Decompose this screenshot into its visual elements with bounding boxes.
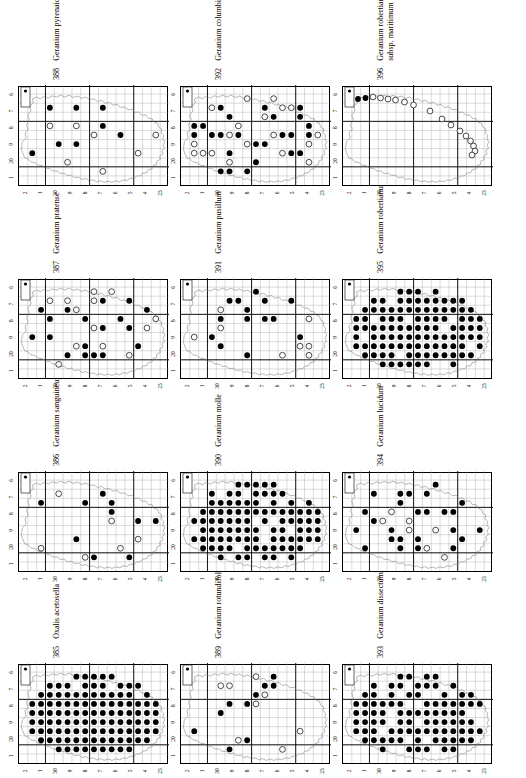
map-frame (18, 86, 168, 186)
filled-circle-symbol (200, 527, 206, 533)
rotated-content: 1209876213098765423387Geranium pratense (10, 199, 170, 389)
axis-tick-label: 7 (260, 770, 265, 773)
axis-tick-label: 9 (392, 385, 397, 388)
filled-circle-symbol (100, 701, 106, 707)
filled-circle-symbol (459, 307, 465, 313)
map-canvas (19, 85, 169, 185)
map-canvas (343, 278, 493, 378)
axis-tick-label: 8 (245, 192, 250, 195)
axis-tick-label: 7 (98, 578, 103, 581)
rotated-content: 1209876213098765423385Oxalis acetosella (10, 584, 170, 774)
filled-circle-symbol (73, 674, 79, 680)
filled-circle-symbol (280, 545, 286, 551)
filled-circle-symbol (73, 710, 79, 716)
filled-circle-symbol (468, 316, 474, 322)
filled-circle-symbol (126, 737, 132, 743)
axis-tick-label: 20 (9, 351, 14, 356)
filled-circle-symbol (288, 554, 294, 560)
filled-circle-symbol (371, 737, 377, 743)
filled-circle-symbol (65, 701, 71, 707)
filled-circle-symbol (371, 728, 377, 734)
filled-circle-symbol (477, 728, 483, 734)
filled-circle-symbol (415, 352, 421, 358)
filled-circle-symbol (153, 719, 159, 725)
filled-circle-symbol (433, 325, 439, 331)
filled-circle-symbol (397, 710, 403, 716)
filled-circle-symbol (227, 150, 233, 156)
filled-circle-symbol (380, 710, 386, 716)
axis-tick-label: 7 (333, 688, 338, 691)
filled-circle-symbol (135, 719, 141, 725)
filled-circle-symbol (38, 728, 44, 734)
axis-tick-label: 1 (362, 770, 367, 773)
axis-tick-label: 4 (305, 192, 310, 195)
filled-circle-symbol (397, 500, 403, 506)
filled-circle-symbol (100, 105, 106, 111)
map-canvas (19, 663, 169, 763)
filled-circle-symbol (235, 500, 241, 506)
filled-circle-symbol (38, 307, 44, 313)
map-area: 1209876213098765423 (18, 472, 168, 572)
axis-tick-label: 6 (275, 385, 280, 388)
filled-circle-symbol (297, 150, 303, 156)
filled-circle-symbol (91, 701, 97, 707)
filled-circle-symbol (82, 719, 88, 725)
filled-circle-symbol (397, 307, 403, 313)
axis-tick-label: 9 (392, 192, 397, 195)
filled-circle-symbol (371, 701, 377, 707)
filled-circle-symbol (244, 482, 250, 488)
filled-circle-symbol (362, 728, 368, 734)
inset-box (21, 87, 30, 107)
filled-circle-symbol (477, 701, 483, 707)
filled-circle-symbol (118, 728, 124, 734)
filled-circle-symbol (65, 737, 71, 743)
filled-circle-symbol (297, 509, 303, 515)
open-circle-symbol (442, 554, 448, 560)
coastline (183, 95, 326, 182)
open-circle-symbol (126, 352, 132, 358)
filled-circle-symbol (253, 545, 259, 551)
open-circle-symbol (411, 102, 417, 108)
axis-tick-label: 1 (171, 562, 176, 565)
filled-circle-symbol (459, 325, 465, 331)
filled-circle-symbol (380, 307, 386, 313)
axis-tick-label: 1 (9, 176, 14, 179)
inset-box (21, 665, 30, 685)
axis-tick-label: 8 (83, 192, 88, 195)
filled-circle-symbol (235, 491, 241, 497)
filled-circle-symbol (218, 105, 224, 111)
filled-circle-symbol (91, 683, 97, 689)
filled-circle-symbol (109, 674, 115, 680)
filled-circle-symbol (306, 536, 312, 542)
filled-circle-symbol (468, 737, 474, 743)
filled-circle-symbol (442, 719, 448, 725)
filled-circle-symbol (459, 710, 465, 716)
filled-circle-symbol (433, 701, 439, 707)
open-circle-symbol (227, 132, 233, 138)
filled-circle-symbol (397, 728, 403, 734)
filled-circle-symbol (144, 737, 150, 743)
axis-tick-label: 23 (482, 383, 487, 388)
axis-tick-label: 20 (333, 351, 338, 356)
filled-circle-symbol (280, 509, 286, 515)
record-symbols (353, 482, 482, 561)
filled-circle-symbol (406, 289, 412, 295)
filled-circle-symbol (29, 701, 35, 707)
map-frame (342, 86, 492, 186)
axis-tick-label: 8 (171, 319, 176, 322)
open-circle-symbol (135, 536, 141, 542)
axis-tick-label: 1 (200, 578, 205, 581)
filled-circle-symbol (362, 509, 368, 515)
axis-tick-label: 8 (9, 319, 14, 322)
filled-circle-symbol (424, 316, 430, 322)
filled-circle-symbol (442, 298, 448, 304)
filled-circle-symbol (433, 710, 439, 716)
panel-number: 394 (376, 454, 386, 466)
filled-circle-symbol (280, 527, 286, 533)
filled-circle-symbol (280, 132, 286, 138)
axis-tick-label: 5 (128, 578, 133, 581)
filled-circle-symbol (227, 701, 233, 707)
open-circle-symbol (315, 132, 321, 138)
filled-circle-symbol (135, 701, 141, 707)
filled-circle-symbol (371, 352, 377, 358)
